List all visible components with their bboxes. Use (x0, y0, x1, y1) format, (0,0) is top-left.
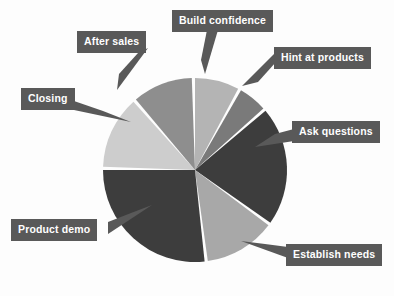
callout-product-demo[interactable]: Product demo (11, 219, 97, 241)
leader-hint-at-products (242, 52, 276, 86)
pie-slice-product-demo[interactable] (103, 170, 205, 262)
leader-build-confidence (201, 30, 218, 74)
callout-after-sales[interactable]: After sales (77, 31, 146, 53)
leader-closing (74, 101, 131, 122)
pie-slices (103, 78, 287, 262)
callout-ask-questions[interactable]: Ask questions (292, 121, 380, 143)
callout-hint-at-products[interactable]: Hint at products (274, 47, 371, 69)
callout-closing[interactable]: Closing (21, 88, 75, 110)
callout-build-confidence[interactable]: Build confidence (172, 10, 273, 32)
leader-after-sales (117, 48, 148, 90)
pie-chart-figure: Build confidence Hint at products Ask qu… (0, 0, 394, 296)
callout-establish-needs[interactable]: Establish needs (286, 244, 382, 266)
